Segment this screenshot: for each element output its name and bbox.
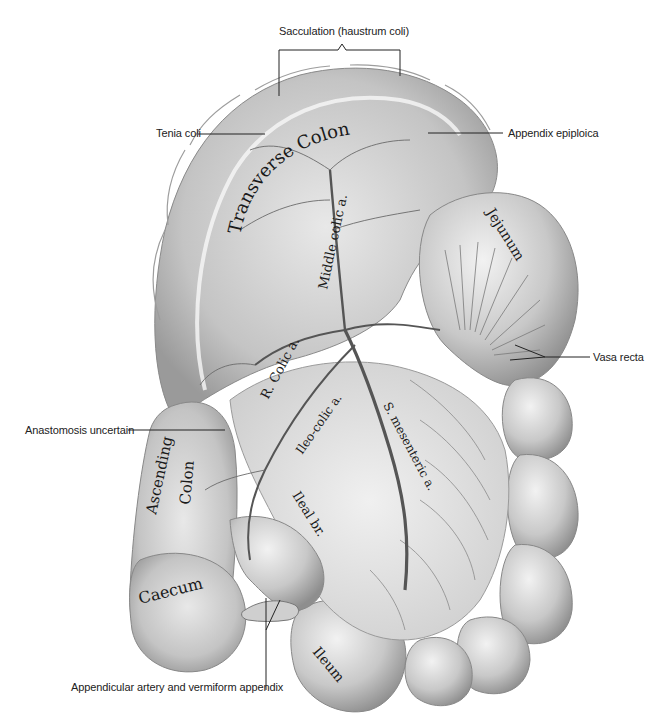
vermiform-appendix xyxy=(242,601,299,622)
callout-vasa-recta: Vasa recta xyxy=(593,351,644,364)
callout-tenia-coli: Tenia coli xyxy=(156,127,201,140)
intestine-illustration: Transverse Colon Middle colic a. Jejunum… xyxy=(0,0,664,720)
callout-appendix-epiploica: Appendix epiploica xyxy=(508,127,599,140)
callout-appendicular: Appendicular artery and vermiform append… xyxy=(71,681,283,694)
anatomy-figure: Transverse Colon Middle colic a. Jejunum… xyxy=(0,0,664,720)
organ-label-colon: Colon xyxy=(176,460,198,506)
callout-sacculation: Sacculation (haustrum coli) xyxy=(279,25,409,38)
callout-anastomosis: Anastomosis uncertain xyxy=(25,424,134,437)
